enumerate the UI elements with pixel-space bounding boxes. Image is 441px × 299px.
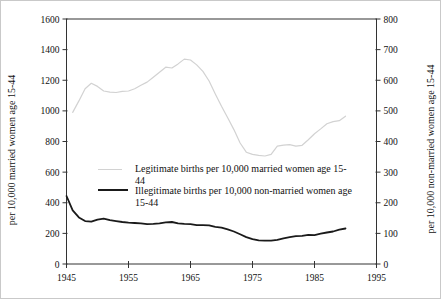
legitimate-births-line xyxy=(73,59,346,156)
svg-text:0: 0 xyxy=(55,260,60,270)
left-axis-ticks: 02004006008001000120014001600 xyxy=(41,15,68,270)
svg-text:200: 200 xyxy=(45,229,60,239)
legend-label-illegitimate-line1: Illegitimate births per 10,000 non-marri… xyxy=(135,185,385,197)
legitimate-line-swatch xyxy=(98,169,122,170)
svg-text:1400: 1400 xyxy=(41,45,60,55)
svg-text:1975: 1975 xyxy=(243,273,262,283)
svg-text:700: 700 xyxy=(384,45,399,55)
birth-rates-chart-figure: 1945195519651975198519950200400600800100… xyxy=(0,0,441,299)
svg-text:800: 800 xyxy=(384,15,399,25)
illegitimate-line-swatch xyxy=(98,189,128,191)
legend-item-legitimate: Legitimate births per 10,000 married wom… xyxy=(135,163,385,187)
svg-text:300: 300 xyxy=(384,168,399,178)
svg-text:0: 0 xyxy=(384,260,389,270)
svg-text:1965: 1965 xyxy=(181,273,200,283)
svg-text:400: 400 xyxy=(384,137,399,147)
svg-text:1955: 1955 xyxy=(119,273,138,283)
svg-text:1600: 1600 xyxy=(41,15,60,25)
svg-text:1000: 1000 xyxy=(41,106,60,116)
svg-text:500: 500 xyxy=(384,106,399,116)
legend-label-illegitimate-line2: 15-44 xyxy=(135,197,385,209)
left-axis-title: per 10,000 married women age 15-44 xyxy=(6,55,18,245)
svg-text:800: 800 xyxy=(45,137,60,147)
svg-text:200: 200 xyxy=(384,198,399,208)
svg-text:1995: 1995 xyxy=(367,273,386,283)
legend-item-illegitimate: Illegitimate births per 10,000 non-marri… xyxy=(135,185,385,209)
legend-label-legitimate-line1: Legitimate births per 10,000 married wom… xyxy=(135,163,385,175)
svg-text:1200: 1200 xyxy=(41,76,60,86)
svg-text:400: 400 xyxy=(45,198,60,208)
right-axis-ticks: 0100200300400500600700800 xyxy=(376,15,399,270)
svg-text:600: 600 xyxy=(45,168,60,178)
svg-text:1945: 1945 xyxy=(57,273,76,283)
svg-text:600: 600 xyxy=(384,76,399,86)
chart-svg: 1945195519651975198519950200400600800100… xyxy=(1,1,441,299)
svg-text:1985: 1985 xyxy=(305,273,324,283)
svg-text:100: 100 xyxy=(384,229,399,239)
right-axis-title: per 10,000 non-married women age 15-44 xyxy=(425,49,437,249)
